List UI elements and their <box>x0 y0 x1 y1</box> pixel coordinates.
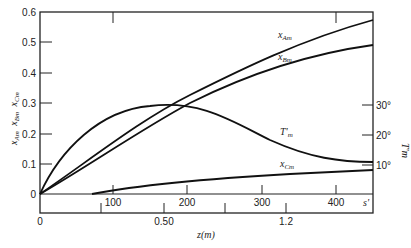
top-ticks <box>113 12 336 23</box>
s-tick-200: 200 <box>179 197 196 208</box>
svg-text:xAm xBm xCm: xAm xBm xCm <box>8 92 21 146</box>
y-tick-0.1: 0.1 <box>22 159 36 170</box>
label-xAm: xAm <box>277 29 292 42</box>
chart: 0.6 0.5 0.4 0.3 0.2 0.1 0 xAm xBm xCm 10… <box>0 0 411 248</box>
curve-xCm <box>92 170 373 194</box>
y-tick-0.3: 0.3 <box>22 98 36 109</box>
label-xCm: xCm <box>279 158 294 171</box>
y-axis-label: xAm xBm xCm <box>8 92 21 146</box>
s-axis-labels: 100 200 300 400 s' <box>105 197 370 208</box>
z-axis-label: z(m) <box>196 229 215 241</box>
s-axis-label: s' <box>363 197 370 208</box>
z-tick-0.50: 0.50 <box>154 216 174 227</box>
y2-tick-labels: 30° 20° 10° <box>376 100 391 171</box>
s-tick-300: 300 <box>254 197 271 208</box>
label-xBm: xBm <box>277 51 292 64</box>
curves <box>40 20 373 194</box>
y2-tick-20: 20° <box>376 130 391 141</box>
y2-axis <box>362 105 373 165</box>
y-tick-0.4: 0.4 <box>22 68 36 79</box>
y-tick-0: 0 <box>30 189 36 200</box>
svg-text:T'm: T'm <box>400 143 411 158</box>
curve-xAm <box>40 20 373 194</box>
z-axis-labels: 0 0.50 1.2 z(m) <box>37 216 293 241</box>
y-tick-0.2: 0.2 <box>22 129 36 140</box>
s-tick-100: 100 <box>105 197 122 208</box>
label-Tm: T'm <box>280 126 293 139</box>
y-tick-labels: 0.6 0.5 0.4 0.3 0.2 0.1 0 <box>22 7 36 200</box>
y2-tick-30: 30° <box>376 100 391 111</box>
plot-frame <box>40 12 373 213</box>
y2-axis-label: T'm <box>400 143 411 158</box>
y2-tick-10: 10° <box>376 160 391 171</box>
z-tick-0: 0 <box>37 216 43 227</box>
y-tick-0.6: 0.6 <box>22 7 36 18</box>
y-axis <box>40 42 52 164</box>
s-tick-400: 400 <box>328 197 345 208</box>
z-tick-1.2: 1.2 <box>279 216 293 227</box>
y-tick-0.5: 0.5 <box>22 37 36 48</box>
